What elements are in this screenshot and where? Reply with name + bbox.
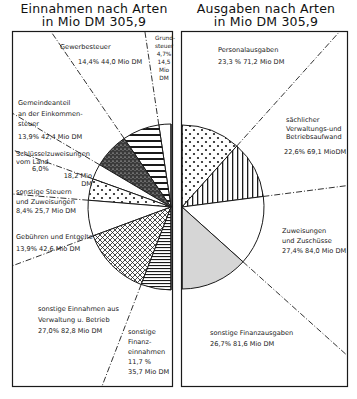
label-saechlicher-aufwand: sächlicherVerwaltungs-undBetriebsaufwand… bbox=[286, 116, 346, 156]
label-sonstige-finanzausgaben: sonstige Finanzausgaben26,7% 81,6 Mio DM bbox=[210, 328, 293, 350]
expenditure-slices bbox=[182, 125, 264, 289]
label-gebuehren: Gebühren und Entgelte13,9% 42,6 Mio DM bbox=[16, 231, 93, 255]
label-schluesselzuweisungen: Schlüsselzuweisungenvom Land 6,0% bbox=[16, 151, 90, 174]
leader-line bbox=[263, 186, 347, 197]
label-zuweisungen-zuschuesse: Zuweisungenund Zuschüsse27,4% 84,0 Mio D… bbox=[282, 226, 346, 256]
label-grundsteuer: Grund-steuer4,7%14,5MioDM bbox=[155, 34, 173, 82]
label-sonstige-finanzeinnahmen: sonstigeFinanz-einnahmen11,7 %35,7 Mio D… bbox=[128, 327, 169, 377]
label-schluessel-value: 18,2 MioDM bbox=[60, 172, 92, 188]
label-sonstige-einnahmen: sonstige Einnahmen ausVerwaltung u. Betr… bbox=[38, 304, 119, 337]
label-sonstige-steuern: sonstige Steuernund Zuweisungen8,4% 25,7… bbox=[16, 188, 76, 217]
label-gewerbesteuer: Gewerbesteuer14,4% 44,0 Mio DM bbox=[60, 40, 142, 70]
revenue-slices bbox=[88, 124, 171, 290]
label-personalausgaben: Personalausgaben23,3 % 71,2 Mio DM bbox=[218, 44, 284, 68]
label-gemeindeanteil: Gemeindeanteilan der Einkommen-steuer13,… bbox=[18, 98, 83, 142]
